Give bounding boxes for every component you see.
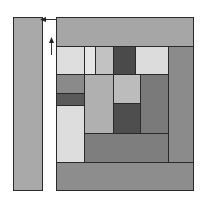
block-lower-band: [84, 133, 169, 163]
block-r1-d: [113, 46, 136, 75]
block-l-light: [56, 105, 85, 163]
block-mid-tall: [84, 74, 114, 134]
block-right-gray: [140, 74, 169, 134]
top-band: [56, 17, 194, 47]
block-mid-dark: [113, 103, 141, 134]
right-band: [168, 46, 194, 163]
block-r1-a: [56, 46, 85, 75]
arrow-up-icon: [48, 37, 55, 55]
block-r1-c: [95, 46, 114, 75]
vertical-strip: [13, 17, 43, 191]
bottom-band: [56, 162, 194, 191]
block-l-gray: [56, 74, 85, 94]
block-mid-light: [113, 74, 141, 104]
block-r1-e: [135, 46, 169, 75]
arrow-left-icon: [40, 8, 57, 15]
